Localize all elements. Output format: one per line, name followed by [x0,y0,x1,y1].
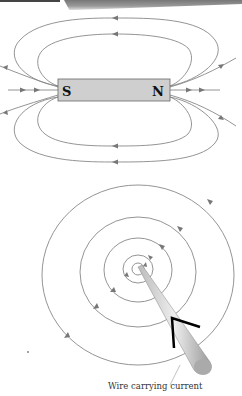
south-pole-label: S [62,84,71,99]
wire [138,265,212,385]
stray-dot [27,351,29,353]
wire-caption: Wire carrying current [108,381,202,391]
wire-field-circles [42,185,234,365]
bar-magnet: S N [58,79,170,101]
magnetic-field-diagram: S N [0,0,242,396]
circle-direction-arrows [64,199,213,338]
north-pole-label: N [152,84,164,99]
